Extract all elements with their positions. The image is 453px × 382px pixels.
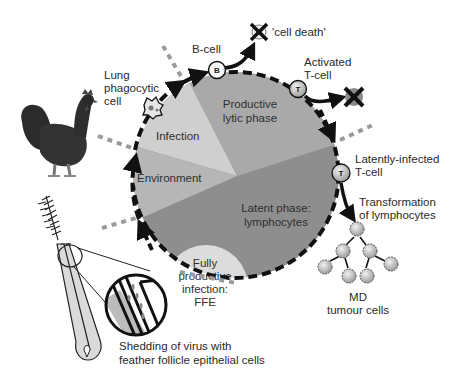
label-latent-t-2: T-cell [355,166,382,178]
label-tumour-1: MD [349,291,367,303]
mdv-lifecycle-diagram: Infection Environment Productive lytic p… [0,0,453,382]
tumour-cell-icon [318,222,398,283]
label-environment: Environment [137,172,202,184]
label-productive-2: lytic phase [223,112,277,124]
label-productive-1: Productive [223,98,277,110]
svg-text:T: T [296,85,301,94]
label-lung-3: cell [104,95,121,107]
label-latent-2: lymphocytes [244,216,308,228]
label-activated-1: Activated [304,56,351,68]
label-ffe-1: Fully [193,257,218,269]
latent-t-cell-marker: T [332,164,350,182]
activated-t-arrow [305,96,340,102]
label-latent-t-1: Latently-infected [355,153,439,165]
label-b-cell: B-cell [192,43,221,55]
rooster-icon [21,89,98,176]
label-ffe-3: infection: [182,283,228,295]
label-cell-death: 'cell death' [272,26,326,38]
svg-text:B: B [214,66,220,75]
label-transformation-2: of lymphocytes [359,209,436,221]
magnified-follicle-inset [104,272,168,345]
cell-death-icon [251,24,267,40]
label-transformation-1: Transformation [359,196,436,208]
svg-text:T: T [339,169,344,178]
label-infection: Infection [156,130,199,142]
activated-cell-death-icon [345,88,363,106]
transformation-arrow [341,183,352,217]
label-latent-1: Latent phase: [241,202,311,214]
label-shedding-2: feather follicle epithelial cells [119,354,265,366]
label-shedding-1: Shedding of virus with [119,340,232,352]
label-lung-1: Lung [104,69,130,81]
label-tumour-2: tumour cells [327,304,389,316]
label-lung-2: phagocytic [104,82,159,94]
b-cell-arrow [222,48,252,68]
label-ffe-4: FFE [194,296,216,308]
activated-t-cell-marker: T [290,81,307,98]
b-cell-marker: B [209,62,226,79]
label-activated-2: T-cell [304,69,331,81]
tumour-cell-cluster [318,222,398,283]
